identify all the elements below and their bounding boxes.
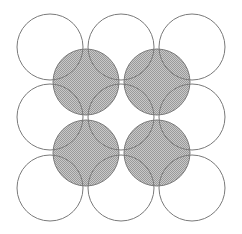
outline-circle: [17, 14, 83, 80]
shaded-circle: [53, 120, 119, 186]
shaded-circle: [53, 49, 119, 115]
outline-circle: [88, 14, 154, 80]
outline-circle: [88, 155, 154, 221]
outline-circle: [159, 14, 225, 80]
outline-circle: [88, 84, 154, 150]
outline-circle: [17, 155, 83, 221]
outline-circles: [17, 14, 225, 221]
outline-circle: [17, 84, 83, 150]
shaded-circle: [124, 49, 190, 115]
outline-circle: [159, 155, 225, 221]
circle-packing-diagram: [0, 0, 242, 234]
diagram-canvas: [0, 0, 242, 234]
shaded-circle: [124, 120, 190, 186]
outline-circle: [159, 84, 225, 150]
